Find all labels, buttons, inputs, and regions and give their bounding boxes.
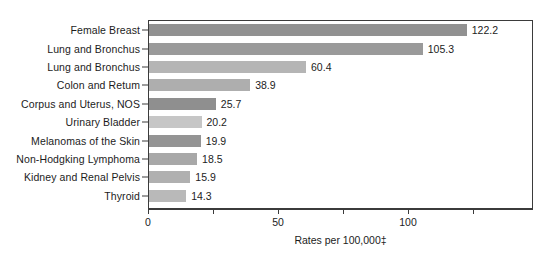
category-label: Corpus and Uterus, NOS (21, 98, 140, 110)
category-label: Lung and Bronchus (47, 43, 140, 55)
bar-row: Non-Hodgking Lymphoma18.5 (0, 150, 546, 168)
bar-value-label: 105.3 (428, 43, 454, 55)
bar-value-label: 38.9 (255, 79, 275, 91)
bar-value-label: 20.2 (207, 116, 227, 128)
bar (149, 79, 250, 91)
bar (149, 135, 201, 147)
bar-row: Kidney and Renal Pelvis15.9 (0, 168, 546, 186)
bar-value-label: 15.9 (195, 171, 215, 183)
x-tick-major (278, 209, 279, 214)
bar-value-label: 14.3 (191, 190, 211, 202)
bar (149, 190, 186, 202)
category-label: Female Breast (70, 24, 140, 36)
bar-value-label: 122.2 (472, 24, 498, 36)
bar-row: Lung and Bronchus105.3 (0, 39, 546, 57)
bar-row: Melanomas of the Skin19.9 (0, 131, 546, 149)
x-tick-label: 0 (145, 216, 151, 228)
x-axis-title: Rates per 100,000‡ (148, 234, 533, 246)
bar (149, 98, 216, 110)
bar-value-label: 60.4 (311, 61, 331, 73)
y-axis-tick (142, 140, 148, 141)
y-axis-tick (142, 122, 148, 123)
x-tick-label: 50 (272, 216, 284, 228)
y-axis-tick (142, 30, 148, 31)
bar-row: Urinary Bladder20.2 (0, 113, 546, 131)
category-label: Thyroid (104, 190, 140, 202)
bar-row: Lung and Bronchus60.4 (0, 58, 546, 76)
x-tick-major (148, 209, 149, 214)
bar (149, 116, 202, 128)
bar-value-label: 25.7 (221, 98, 241, 110)
category-label: Lung and Bronchus (47, 61, 140, 73)
x-tick-minor (343, 209, 344, 214)
bar (149, 61, 306, 73)
bar-value-label: 19.9 (206, 135, 226, 147)
y-axis-tick (142, 177, 148, 178)
y-axis-tick (142, 85, 148, 86)
bar-row: Female Breast122.2 (0, 21, 546, 39)
x-tick-major (408, 209, 409, 214)
category-label: Colon and Retum (57, 79, 140, 91)
bar (149, 171, 190, 183)
bar (149, 43, 423, 55)
category-label: Melanomas of the Skin (31, 135, 140, 147)
category-label: Non-Hodgking Lymphoma (16, 153, 140, 165)
bar-row: Thyroid14.3 (0, 187, 546, 205)
x-tick-label: 100 (399, 216, 417, 228)
y-axis-tick (142, 66, 148, 67)
category-label: Urinary Bladder (66, 116, 140, 128)
bar-row: Corpus and Uterus, NOS25.7 (0, 95, 546, 113)
bar-value-label: 18.5 (202, 153, 222, 165)
y-axis-tick (142, 158, 148, 159)
bar-rows: Female Breast122.2Lung and Bronchus105.3… (0, 21, 546, 209)
x-tick-minor (473, 209, 474, 214)
category-label: Kidney and Renal Pelvis (24, 171, 140, 183)
y-axis-tick (142, 195, 148, 196)
bar-chart: Female Breast122.2Lung and Bronchus105.3… (0, 0, 546, 262)
x-axis-line (148, 209, 533, 210)
bar (149, 153, 197, 165)
y-axis-tick (142, 103, 148, 104)
bar-row: Colon and Retum38.9 (0, 76, 546, 94)
y-axis-tick (142, 48, 148, 49)
x-tick-minor (213, 209, 214, 214)
bar (149, 24, 467, 36)
